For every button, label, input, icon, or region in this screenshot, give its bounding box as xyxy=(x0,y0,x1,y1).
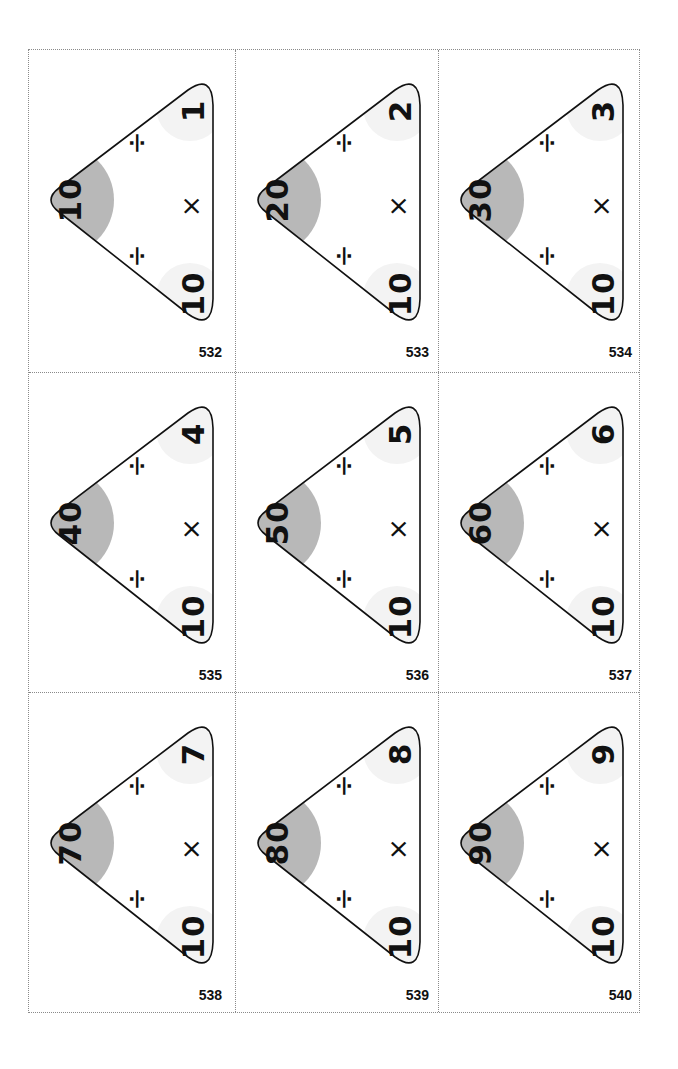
product-number: 10 xyxy=(50,170,90,230)
triangle-flashcard: 50 5 10 ÷ ÷ × 536 xyxy=(235,372,439,693)
divide-sign-icon: ÷ xyxy=(118,226,158,286)
multiply-sign-icon: × xyxy=(378,499,418,559)
divide-sign-icon: ÷ xyxy=(528,436,568,496)
factor-number-right: 2 xyxy=(380,81,420,141)
triangle-flashcard: 80 8 10 ÷ ÷ × 539 xyxy=(235,692,439,1013)
factor-number-left: 10 xyxy=(173,264,213,324)
factor-number-left: 10 xyxy=(583,587,623,647)
factor-number-right: 8 xyxy=(380,724,420,784)
factor-number-left: 10 xyxy=(173,587,213,647)
card-number: 539 xyxy=(406,987,429,1003)
product-number: 60 xyxy=(460,493,500,553)
divide-sign-icon: ÷ xyxy=(325,869,365,929)
multiply-sign-icon: × xyxy=(378,819,418,879)
card-number: 538 xyxy=(199,987,222,1003)
card-number: 534 xyxy=(609,344,632,360)
product-number: 50 xyxy=(257,493,297,553)
card-number: 537 xyxy=(609,667,632,683)
divide-sign-icon: ÷ xyxy=(528,226,568,286)
triangle-flashcard: 40 4 10 ÷ ÷ × 535 xyxy=(28,372,232,693)
factor-number-right: 7 xyxy=(173,724,213,784)
multiply-sign-icon: × xyxy=(171,176,211,236)
divide-sign-icon: ÷ xyxy=(528,113,568,173)
product-number: 20 xyxy=(257,170,297,230)
card-number: 532 xyxy=(199,344,222,360)
multiply-sign-icon: × xyxy=(171,499,211,559)
divide-sign-icon: ÷ xyxy=(118,549,158,609)
product-number: 30 xyxy=(460,170,500,230)
product-number: 90 xyxy=(460,813,500,873)
factor-number-left: 10 xyxy=(380,264,420,324)
multiply-sign-icon: × xyxy=(378,176,418,236)
triangle-flashcard: 20 2 10 ÷ ÷ × 533 xyxy=(235,49,439,370)
factor-number-right: 3 xyxy=(583,81,623,141)
triangle-flashcard: 10 1 10 ÷ ÷ × 532 xyxy=(28,49,232,370)
product-number: 80 xyxy=(257,813,297,873)
multiply-sign-icon: × xyxy=(171,819,211,879)
card-number: 536 xyxy=(406,667,429,683)
triangle-flashcard: 60 6 10 ÷ ÷ × 537 xyxy=(438,372,642,693)
divide-sign-icon: ÷ xyxy=(325,756,365,816)
multiply-sign-icon: × xyxy=(581,499,621,559)
divide-sign-icon: ÷ xyxy=(118,869,158,929)
card-number: 535 xyxy=(199,667,222,683)
divide-sign-icon: ÷ xyxy=(528,869,568,929)
divide-sign-icon: ÷ xyxy=(325,549,365,609)
card-number: 533 xyxy=(406,344,429,360)
factor-number-left: 10 xyxy=(583,907,623,967)
multiply-sign-icon: × xyxy=(581,176,621,236)
factor-number-right: 4 xyxy=(173,404,213,464)
factor-number-left: 10 xyxy=(173,907,213,967)
triangle-flashcard: 30 3 10 ÷ ÷ × 534 xyxy=(438,49,642,370)
factor-number-right: 9 xyxy=(583,724,623,784)
factor-number-left: 10 xyxy=(380,587,420,647)
factor-number-right: 1 xyxy=(173,81,213,141)
product-number: 40 xyxy=(50,493,90,553)
divide-sign-icon: ÷ xyxy=(118,756,158,816)
divide-sign-icon: ÷ xyxy=(118,113,158,173)
divide-sign-icon: ÷ xyxy=(325,436,365,496)
triangle-flashcard: 90 9 10 ÷ ÷ × 540 xyxy=(438,692,642,1013)
multiply-sign-icon: × xyxy=(581,819,621,879)
divide-sign-icon: ÷ xyxy=(325,113,365,173)
factor-number-left: 10 xyxy=(583,264,623,324)
factor-number-right: 5 xyxy=(380,404,420,464)
product-number: 70 xyxy=(50,813,90,873)
divide-sign-icon: ÷ xyxy=(325,226,365,286)
factor-number-left: 10 xyxy=(380,907,420,967)
card-number: 540 xyxy=(609,987,632,1003)
divide-sign-icon: ÷ xyxy=(528,549,568,609)
divide-sign-icon: ÷ xyxy=(118,436,158,496)
triangle-flashcard: 70 7 10 ÷ ÷ × 538 xyxy=(28,692,232,1013)
factor-number-right: 6 xyxy=(583,404,623,464)
divide-sign-icon: ÷ xyxy=(528,756,568,816)
